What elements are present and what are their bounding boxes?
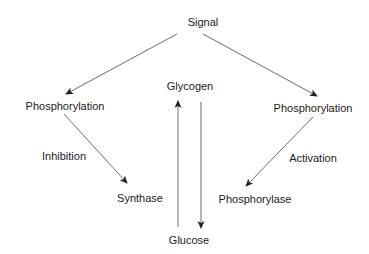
node-phosphorylation-left: Phosphorylation xyxy=(26,100,105,113)
arrow-phosphorylation-to-synthase xyxy=(64,114,127,183)
node-glycogen: Glycogen xyxy=(167,80,213,93)
node-signal: Signal xyxy=(188,16,219,29)
arrow-signal-to-phosphorylation-left xyxy=(66,34,177,94)
node-phosphorylation-right: Phosphorylation xyxy=(274,102,353,115)
node-glucose: Glucose xyxy=(169,234,209,247)
arrow-signal-to-phosphorylation-right xyxy=(203,34,317,96)
label-inhibition: Inhibition xyxy=(42,150,86,163)
node-phosphorylase: Phosphorylase xyxy=(219,193,292,206)
node-synthase: Synthase xyxy=(117,192,163,205)
label-activation: Activation xyxy=(289,152,337,165)
arrows-layer xyxy=(0,0,369,254)
